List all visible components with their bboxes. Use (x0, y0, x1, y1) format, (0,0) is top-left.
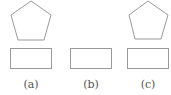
rectangle-b (71, 49, 112, 69)
rectangle-c (128, 49, 169, 69)
label-a: (a) (11, 78, 51, 91)
figure-b (71, 49, 112, 69)
label-c: (c) (128, 78, 168, 91)
pentagon-c (129, 1, 168, 39)
figure-a (11, 1, 52, 69)
rectangle-a (11, 49, 52, 69)
label-b: (b) (71, 78, 111, 91)
pentagon-a (11, 1, 51, 40)
figure-c (128, 1, 169, 69)
